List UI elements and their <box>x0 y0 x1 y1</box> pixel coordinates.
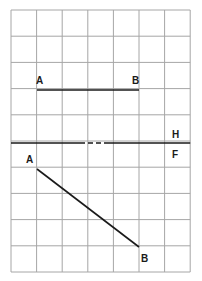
label-a-top: A <box>36 75 43 86</box>
label-h: H <box>172 129 179 140</box>
label-b-front: B <box>141 253 148 264</box>
label-f: F <box>172 149 178 160</box>
label-a-front: A <box>26 154 33 165</box>
fold-line: H F <box>11 129 190 160</box>
orthographic-projection-diagram: H F A B A B <box>0 0 202 281</box>
label-b-top: B <box>132 75 139 86</box>
grid <box>11 10 190 272</box>
front-view-line: A B <box>26 154 148 264</box>
